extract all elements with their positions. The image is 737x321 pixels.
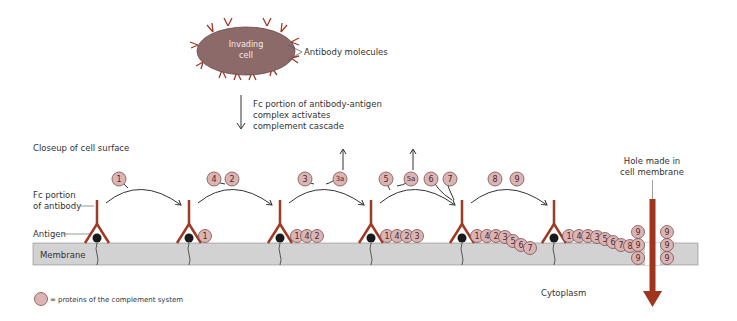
svg-text:9: 9 xyxy=(635,241,640,250)
svg-text:9: 9 xyxy=(635,254,640,263)
svg-text:1: 1 xyxy=(294,232,299,241)
svg-text:2: 2 xyxy=(585,232,590,241)
incoming-protein-7: 7 xyxy=(443,172,457,186)
svg-text:5: 5 xyxy=(383,175,388,184)
fc-portion-label-2: of antibody xyxy=(33,201,81,211)
svg-text:5a: 5a xyxy=(407,175,416,183)
membrane-pore-left: 9 9 9 xyxy=(632,226,645,265)
incoming-protein-8: 8 xyxy=(488,172,502,186)
bound-complex-3: 1 4 2 xyxy=(291,230,324,243)
svg-text:1: 1 xyxy=(384,232,389,241)
svg-text:2: 2 xyxy=(493,232,498,241)
cascade-note-line1: Fc portion of antibody-antigen xyxy=(253,99,382,109)
svg-text:4: 4 xyxy=(576,232,581,241)
antigen-label: Antigen xyxy=(33,229,66,239)
svg-text:9: 9 xyxy=(664,241,669,250)
bound-complex-2: 1 xyxy=(199,230,212,243)
membrane-pore-right: 9 9 9 xyxy=(661,226,674,265)
svg-text:2: 2 xyxy=(229,175,234,184)
fc-portion-label-1: Fc portion xyxy=(33,190,76,200)
incoming-protein-1: 1 xyxy=(112,172,126,186)
bound-complex-4: 1 4 2 3 xyxy=(381,230,424,243)
cascade-note-line3: complement cascade xyxy=(253,121,344,131)
cascade-note-line2: complex activates xyxy=(253,110,331,120)
svg-text:2: 2 xyxy=(404,232,409,241)
closeup-label: Closeup of cell surface xyxy=(33,143,129,153)
svg-text:3: 3 xyxy=(302,175,307,184)
incoming-protein-3: 3 xyxy=(298,172,312,186)
cascade-arrow xyxy=(237,95,245,129)
invading-cell-label-1: Invading xyxy=(229,40,264,49)
step-arrow-5 xyxy=(471,189,547,205)
svg-text:3: 3 xyxy=(414,232,419,241)
membrane-label: Membrane xyxy=(40,250,86,260)
incoming-protein-5: 5 xyxy=(379,172,393,186)
incoming-protein-6: 6 xyxy=(424,172,438,186)
incoming-protein-2: 2 xyxy=(225,172,239,186)
svg-text:3a: 3a xyxy=(336,175,345,183)
svg-text:1: 1 xyxy=(566,232,571,241)
svg-text:7: 7 xyxy=(527,244,532,253)
svg-text:6: 6 xyxy=(518,241,523,250)
svg-text:1: 1 xyxy=(474,232,479,241)
svg-text:9: 9 xyxy=(664,228,669,237)
incoming-protein-4: 4 xyxy=(207,172,221,186)
svg-text:4: 4 xyxy=(211,175,216,184)
cytoplasm-label: Cytoplasm xyxy=(541,288,586,298)
svg-text:9: 9 xyxy=(514,175,519,184)
legend: = proteins of the complement system xyxy=(35,293,184,306)
hole-label-1: Hole made in xyxy=(624,156,680,166)
svg-text:4: 4 xyxy=(394,232,399,241)
released-protein-3a: 3a xyxy=(333,172,347,186)
released-protein-5a: 5a xyxy=(404,172,418,186)
svg-text:8: 8 xyxy=(492,175,497,184)
legend-protein-swatch xyxy=(35,293,48,306)
hole-label-2: cell membrane xyxy=(620,167,684,177)
svg-text:4: 4 xyxy=(304,232,309,241)
svg-text:6: 6 xyxy=(428,175,433,184)
legend-text: = proteins of the complement system xyxy=(50,296,183,304)
complement-cascade-diagram: Invading cell Antibody molecules Fc port… xyxy=(0,0,737,321)
antibody-molecules-label: Antibody molecules xyxy=(304,47,388,57)
incoming-protein-9: 9 xyxy=(510,172,524,186)
svg-text:9: 9 xyxy=(664,254,669,263)
invading-cell-label-2: cell xyxy=(239,51,253,60)
svg-text:7: 7 xyxy=(447,175,452,184)
svg-text:1: 1 xyxy=(116,175,121,184)
svg-text:4: 4 xyxy=(484,232,489,241)
svg-text:9: 9 xyxy=(635,228,640,237)
svg-text:1: 1 xyxy=(202,232,207,241)
svg-text:7: 7 xyxy=(618,241,623,250)
step-arrow-2 xyxy=(198,189,272,205)
membrane xyxy=(33,243,698,265)
step-arrow-1 xyxy=(106,189,181,205)
invading-cell: Invading cell Antibody molecules xyxy=(190,18,388,80)
step-arrow-3 xyxy=(289,189,364,205)
step-arrow-4 xyxy=(380,189,455,205)
svg-text:2: 2 xyxy=(314,232,319,241)
